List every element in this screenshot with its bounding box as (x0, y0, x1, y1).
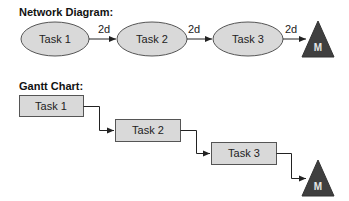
network-node-task-1: Task 1 (21, 22, 89, 56)
bar-label: Task 1 (35, 100, 67, 112)
gantt-bar-task-2: Task 2 (116, 120, 181, 142)
bar-label: Task 3 (228, 147, 260, 159)
network-edge-1: 2d (89, 23, 116, 39)
network-diagram-title: Network Diagram: (19, 6, 113, 18)
gantt-milestone: M (302, 160, 334, 196)
gantt-dependency-2 (181, 131, 211, 154)
lag-label: 2d (98, 23, 110, 35)
node-label: Task 2 (136, 33, 168, 45)
diagram-canvas: Network Diagram: Task 1 2d Task 2 2d Tas… (0, 0, 349, 201)
network-edge-3: 2d (283, 23, 306, 39)
network-node-task-3: Task 3 (213, 22, 283, 56)
bar-label: Task 2 (132, 124, 164, 136)
gantt-dependency-3 (277, 154, 307, 179)
milestone-label: M (314, 181, 322, 192)
gantt-bar-task-1: Task 1 (20, 96, 84, 117)
network-milestone: M (302, 21, 334, 57)
milestone-label: M (314, 42, 322, 53)
lag-label: 2d (285, 23, 297, 35)
node-label: Task 3 (232, 33, 264, 45)
gantt-chart-title: Gantt Chart: (19, 80, 83, 92)
network-node-task-2: Task 2 (117, 22, 187, 56)
lag-label: 2d (188, 23, 200, 35)
network-edge-2: 2d (187, 23, 212, 39)
gantt-dependency-1 (84, 107, 115, 131)
node-label: Task 1 (39, 33, 71, 45)
gantt-bar-task-3: Task 3 (212, 143, 277, 165)
